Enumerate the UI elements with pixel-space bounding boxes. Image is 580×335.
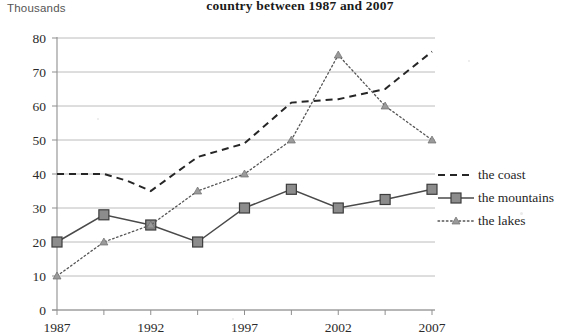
data-point-the-mountains-1994.5 (193, 237, 203, 247)
y-axis-tick-70: 70 (33, 65, 47, 80)
x-axis-tick-1992: 1992 (137, 320, 164, 335)
data-point-the-mountains-1987 (52, 237, 62, 247)
data-point-the-mountains-2007 (427, 184, 437, 194)
y-axis-tick-80: 80 (33, 31, 47, 46)
y-axis-tick-0: 0 (39, 303, 46, 318)
legend-key-the-mountains-icon (437, 191, 475, 205)
y-axis-tick-10: 10 (33, 269, 47, 284)
data-point-the-mountains-2004.5 (380, 195, 390, 205)
y-axis-labels: 01020304050607080 (33, 31, 47, 318)
data-point-the-mountains-1989.5 (99, 210, 109, 220)
data-point-the-lakes-1999.5 (287, 136, 295, 143)
legend-key-the-lakes-icon (437, 214, 475, 228)
legend-label: the mountains (478, 190, 554, 206)
data-point-the-mountains-1999.5 (286, 184, 296, 194)
y-axis-tick-50: 50 (33, 133, 47, 148)
chart-legend: the coastthe mountainsthe lakes (437, 163, 577, 232)
data-series (52, 51, 437, 279)
x-axis-tick-2002: 2002 (325, 320, 352, 335)
y-axis-tick-30: 30 (33, 201, 47, 216)
data-point-the-lakes-2002 (334, 51, 342, 58)
series-line-the-mountains (57, 189, 432, 242)
data-point-the-lakes-2004.5 (381, 102, 389, 109)
y-axis-tick-40: 40 (33, 167, 47, 182)
x-axis-tick-2007: 2007 (419, 320, 446, 335)
data-point-the-mountains-2002 (333, 203, 343, 213)
legend-key-the-coast-icon (437, 168, 475, 182)
legend-item-the-lakes[interactable]: the lakes (437, 209, 577, 232)
x-axis-tick-1987: 1987 (44, 320, 71, 335)
legend-label: the lakes (478, 213, 526, 229)
x-axis-labels: 19871992199720022007 (44, 320, 446, 335)
y-axis-tick-60: 60 (33, 99, 47, 114)
legend-item-the-coast[interactable]: the coast (437, 163, 577, 186)
legend-item-the-mountains[interactable]: the mountains (437, 186, 577, 209)
x-axis-tick-1997: 1997 (231, 320, 258, 335)
data-point-the-mountains-1997 (240, 203, 250, 213)
series-line-the-lakes (57, 55, 432, 276)
legend-label: the coast (478, 167, 526, 183)
y-axis-tick-20: 20 (33, 235, 47, 250)
data-point-the-lakes-2007 (428, 136, 436, 143)
data-point-the-lakes-1997 (241, 170, 249, 177)
